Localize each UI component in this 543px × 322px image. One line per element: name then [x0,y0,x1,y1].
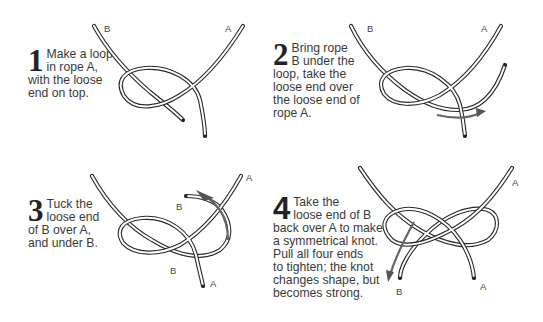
step-1-knot-illustration: B A [94,23,243,138]
step-4-knot-illustration: A B A [360,168,519,297]
step-2-label-a: A [481,23,488,34]
step-3-knot-illustration: A B B A [92,172,253,289]
step-2-label-b: B [367,23,373,34]
step-1-label-a: A [225,23,232,34]
step-2-knot-illustration: B A [351,23,507,138]
step-3-label-a-end: A [210,278,217,289]
knot-diagrams: B A B A A B B A A [0,0,543,322]
step-3-label-b-mid: B [170,265,176,276]
step-1-label-b: B [104,23,110,34]
step-4-label-a-top: A [512,177,519,188]
step-4-label-a-end: A [480,281,487,292]
step-3-label-a-top: A [246,172,253,183]
step-4-label-b-end: B [396,286,402,297]
step-3-label-b-end: B [176,201,182,212]
step-2-direction-arrow [437,113,480,117]
